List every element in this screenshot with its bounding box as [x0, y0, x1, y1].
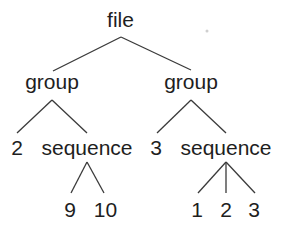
scan-artifact: [206, 30, 209, 33]
edge-sequence-left-9: [71, 162, 87, 193]
leaf-9: 9: [64, 198, 76, 221]
node-sequence-left: sequence: [41, 136, 132, 159]
node-file: file: [107, 8, 134, 31]
edge-group-right-sequence: [191, 100, 226, 133]
edge-group-left-sequence: [52, 100, 87, 133]
edge-file-group-left: [53, 37, 121, 71]
edge-sequence-right-1: [198, 162, 226, 193]
node-sequence-right: sequence: [180, 136, 271, 159]
edge-sequence-right-3: [226, 162, 255, 193]
edge-group-left-2: [17, 100, 52, 133]
edge-file-group-right: [121, 37, 191, 70]
leaf-2: 2: [220, 198, 232, 221]
edge-sequence-left-10: [87, 162, 104, 193]
node-group-right: group: [164, 70, 218, 93]
leaf-1: 1: [191, 198, 203, 221]
node-num-2: 2: [11, 136, 23, 159]
leaf-10: 10: [94, 198, 117, 221]
tree-diagram: file group group 2 sequence 3 sequence 9…: [0, 0, 284, 228]
edge-group-right-3: [157, 100, 191, 133]
node-group-left: group: [25, 70, 79, 93]
node-num-3: 3: [150, 136, 162, 159]
leaf-3: 3: [248, 198, 260, 221]
